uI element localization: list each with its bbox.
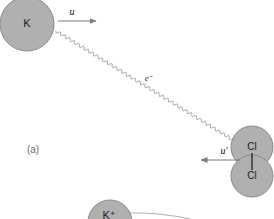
potassium-atom: K (0, 0, 54, 51)
figure-canvas: K u e⁻ Cl Cl u′ K⁺ (0, 0, 274, 219)
velocity-u-label: u (70, 6, 75, 17)
potassium-ion-label: K⁺ (102, 209, 115, 219)
harpoon-mechanism-figure: K u e⁻ Cl Cl u′ K⁺ (0, 0, 274, 219)
chlorine-bottom-label: Cl (247, 170, 256, 181)
potassium-ion-trajectory-icon (129, 213, 195, 219)
chlorine-molecule: Cl Cl (231, 126, 273, 197)
electron-transfer-path: e⁻ (56, 31, 234, 140)
electron-label: e⁻ (145, 73, 154, 83)
chlorine-top-label: Cl (247, 141, 256, 152)
potassium-atom-label: K (23, 17, 31, 29)
panel-label: (a) (27, 144, 39, 155)
velocity-u-prime-label: u′ (220, 145, 228, 156)
potassium-ion: K⁺ (88, 200, 195, 219)
potassium-velocity-vector: u (58, 6, 96, 21)
wavy-electron-path-icon (56, 31, 234, 140)
